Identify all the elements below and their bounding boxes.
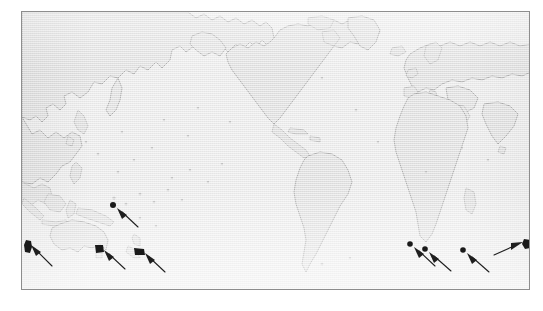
- figure-root: [0, 0, 543, 311]
- land-tasmania: [96, 252, 102, 258]
- map-frame: [21, 11, 530, 290]
- world-map-basemap: [22, 12, 530, 290]
